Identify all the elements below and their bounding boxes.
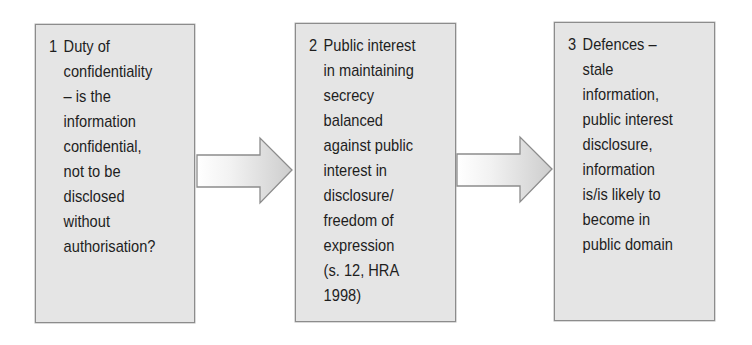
step-1-line: confidentiality <box>49 59 155 84</box>
step-1-line: information <box>49 109 155 134</box>
step-2-box: 2Public interest in maintaining secrecy … <box>295 23 456 322</box>
step-1-text: 1Duty of confidentiality – is the inform… <box>49 34 155 259</box>
step-2-line: interest in <box>309 158 415 183</box>
step-2-line: (s. 12, HRA <box>309 258 415 283</box>
step-1-number: 1 <box>49 34 57 59</box>
step-1-line: without <box>49 209 155 234</box>
step-3-line: is/is likely to <box>568 182 673 207</box>
step-3-number: 3 <box>568 32 576 57</box>
step-3-line: Defences – <box>583 35 657 54</box>
step-3-line: information <box>568 157 673 182</box>
step-2-line: in maintaining <box>309 58 415 83</box>
step-2-line: against public <box>309 133 415 158</box>
step-1-line: confidential, <box>49 134 155 159</box>
step-3-line: public interest <box>568 107 673 132</box>
step-2-line: balanced <box>309 108 415 133</box>
step-3-text: 3Defences – stale information, public in… <box>568 32 673 257</box>
step-2-line: freedom of <box>309 208 415 233</box>
step-3-line: public domain <box>568 232 673 257</box>
right-arrow-icon <box>456 135 554 205</box>
step-2-number: 2 <box>309 33 317 58</box>
step-2-line: 1998) <box>309 283 415 308</box>
step-3-line: disclosure, <box>568 132 673 157</box>
step-1-box: 1Duty of confidentiality – is the inform… <box>35 24 195 323</box>
right-arrow-icon <box>196 136 294 206</box>
step-2-line: expression <box>309 233 415 258</box>
step-3-box: 3Defences – stale information, public in… <box>554 22 715 321</box>
step-3-line: information, <box>568 82 673 107</box>
step-1-line: – is the <box>49 84 155 109</box>
step-2-line: Public interest <box>324 36 416 55</box>
step-2-line: secrecy <box>309 83 415 108</box>
step-1-line: authorisation? <box>49 234 155 259</box>
step-2-text: 2Public interest in maintaining secrecy … <box>309 33 415 308</box>
step-1-line: Duty of <box>64 37 110 56</box>
step-2-line: disclosure/ <box>309 183 415 208</box>
step-1-line: disclosed <box>49 184 155 209</box>
step-3-line: become in <box>568 207 673 232</box>
step-3-line: stale <box>568 57 673 82</box>
step-1-line: not to be <box>49 159 155 184</box>
